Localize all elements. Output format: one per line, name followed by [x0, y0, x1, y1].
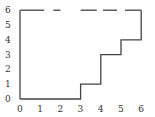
x-axis-tick-labels: 0123456 [17, 104, 144, 114]
x-tick-label: 3 [78, 104, 84, 114]
x-tick-label: 5 [118, 104, 124, 114]
y-tick-label: 2 [5, 64, 11, 74]
y-tick-label: 4 [5, 35, 11, 45]
x-tick-label: 4 [98, 104, 104, 114]
plot-lines [20, 10, 141, 99]
staircase-boundary-line [20, 10, 141, 99]
step-chart: 0123456 0123456 [0, 0, 155, 117]
x-tick-label: 0 [17, 104, 23, 114]
x-tick-label: 6 [138, 104, 144, 114]
x-tick-label: 1 [37, 104, 43, 114]
y-tick-label: 5 [5, 20, 11, 30]
y-tick-label: 1 [5, 79, 11, 89]
y-tick-label: 6 [5, 5, 11, 15]
y-tick-label: 3 [5, 50, 11, 60]
x-tick-label: 2 [57, 104, 63, 114]
y-axis-tick-labels: 0123456 [5, 5, 11, 104]
y-tick-label: 0 [5, 94, 11, 104]
